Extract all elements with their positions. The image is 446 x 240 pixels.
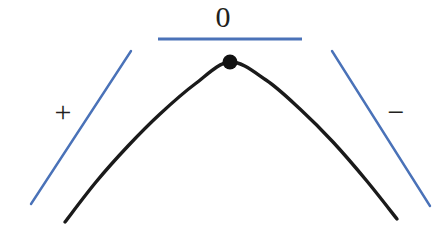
derivative-sign-figure: 0 + − [0,0,446,240]
negative-slope-label: − [381,97,411,127]
positive-slope-label: + [48,97,78,127]
apex-slope-label: 0 [0,2,446,32]
maximum-point-marker [223,55,238,70]
